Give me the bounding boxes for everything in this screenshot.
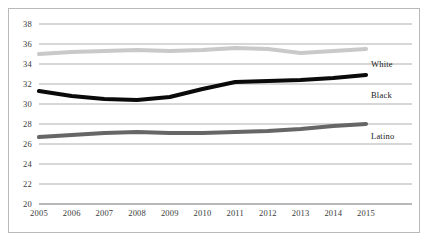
y-tick-label: 28 xyxy=(8,119,32,129)
y-tick-label: 20 xyxy=(8,199,32,209)
x-tick-label: 2011 xyxy=(218,208,252,218)
y-tick-label: 36 xyxy=(8,39,32,49)
x-tick-label: 2006 xyxy=(55,208,89,218)
y-tick-label: 30 xyxy=(8,99,32,109)
x-tick-label: 2012 xyxy=(251,208,285,218)
y-tick-label: 22 xyxy=(8,179,32,189)
x-tick-label: 2010 xyxy=(186,208,220,218)
series-label-white: White xyxy=(371,59,393,69)
series-label-black: Black xyxy=(371,90,392,100)
y-tick-label: 32 xyxy=(8,79,32,89)
x-tick-label: 2007 xyxy=(87,208,121,218)
x-tick-label: 2015 xyxy=(349,208,383,218)
series-line-black xyxy=(39,75,366,100)
x-tick-label: 2009 xyxy=(153,208,187,218)
x-tick-label: 2013 xyxy=(284,208,318,218)
series-line-white xyxy=(39,48,366,54)
series-line-latino xyxy=(39,124,366,137)
y-tick-label: 34 xyxy=(8,59,32,69)
series-label-latino: Latino xyxy=(371,131,394,141)
y-tick-label: 38 xyxy=(8,19,32,29)
x-tick-label: 2005 xyxy=(22,208,56,218)
y-tick-label: 24 xyxy=(8,159,32,169)
line-chart xyxy=(0,0,431,242)
x-tick-label: 2008 xyxy=(120,208,154,218)
y-tick-label: 26 xyxy=(8,139,32,149)
x-tick-label: 2014 xyxy=(316,208,350,218)
